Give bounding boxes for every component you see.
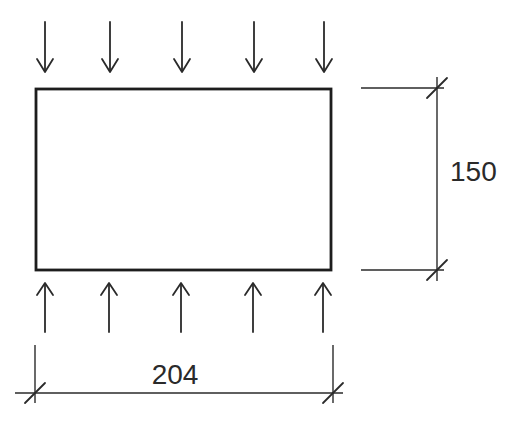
up-arrow — [245, 283, 261, 332]
down-arrow — [316, 22, 332, 72]
plate-rectangle — [36, 89, 331, 270]
bottom-load-arrows — [37, 283, 331, 332]
down-arrow — [102, 22, 118, 72]
width-dimension-label: 204 — [152, 359, 199, 390]
height-dimension: 150 — [361, 77, 497, 281]
down-arrow — [174, 22, 190, 72]
up-arrow — [173, 283, 189, 332]
up-arrow — [37, 283, 53, 332]
down-arrow — [246, 22, 262, 72]
up-arrow — [101, 283, 117, 332]
width-dimension: 204 — [15, 345, 343, 403]
down-arrow — [37, 22, 53, 72]
diagram-canvas: 150 204 — [0, 0, 506, 424]
up-arrow — [315, 283, 331, 332]
height-dimension-label: 150 — [450, 156, 497, 187]
top-load-arrows — [37, 22, 332, 72]
load-diagram-svg: 150 204 — [0, 0, 506, 424]
